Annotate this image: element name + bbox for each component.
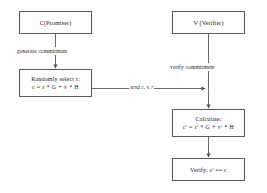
node-verifier-header-label: V (Verifier) xyxy=(193,18,223,27)
node-verify: Verify: c' == c xyxy=(172,158,245,181)
edge-label-generate-commitment: generate commitment xyxy=(16,47,69,55)
node-randomly-select-formula: c = r * G + v * H xyxy=(32,83,79,92)
edge-label-send-values: send c, v, r xyxy=(129,83,154,91)
node-calculate-line1: Calculate: xyxy=(195,114,221,123)
node-verifier-header: V (Verifier) xyxy=(172,11,245,34)
node-randomly-select-line1: Randomly select r: xyxy=(31,74,80,83)
node-randomly-select: Randomly select r: c = r * G + v * H xyxy=(19,69,92,97)
node-verify-label: Verify: c' == c xyxy=(190,165,227,174)
node-calculate: Calculate: c' = r' * G + v' * H xyxy=(172,109,245,137)
edge-label-verify-commitment: verify commitment xyxy=(169,63,216,71)
node-prover-header: C(Promiser) xyxy=(19,11,92,34)
commitment-protocol-diagram: C(Promiser) V (Verifier) generate commit… xyxy=(0,0,267,193)
node-calculate-formula: c' = r' * G + v' * H xyxy=(183,123,234,132)
node-prover-header-label: C(Promiser) xyxy=(40,18,72,27)
